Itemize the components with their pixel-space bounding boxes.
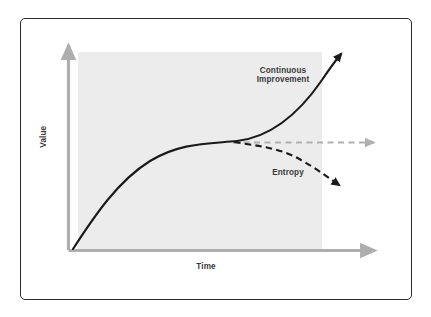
x-axis-label: Time <box>178 262 234 271</box>
y-axis-label: Value <box>39 115 48 159</box>
annotation-continuous-improvement: ContinuousImprovement <box>252 66 314 85</box>
annotation-entropy: Entropy <box>258 168 318 177</box>
annotation-continuous-line1: Continuous <box>260 66 306 75</box>
annotation-continuous-line2: Improvement <box>257 75 310 84</box>
figure-canvas: ContinuousImprovement Entropy Value Time <box>0 0 431 317</box>
